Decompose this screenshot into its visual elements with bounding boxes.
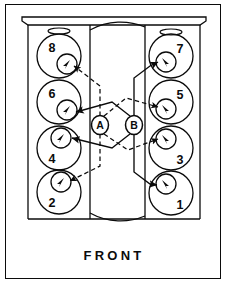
arrowhead-plug-6 <box>63 106 70 115</box>
cylinder-label-7: 7 <box>173 42 187 56</box>
right-bank-plugs <box>149 34 193 215</box>
cylinder-label-1: 1 <box>173 198 187 212</box>
valve-cover-slots <box>48 28 182 35</box>
intake-manifold-bottom-curve <box>90 213 145 221</box>
cylinder-label-6: 6 <box>45 87 59 101</box>
arrowhead-plug-4 <box>57 134 64 143</box>
arrowhead-plug-5 <box>162 105 169 114</box>
manifold-top-rail <box>22 17 206 25</box>
terminal-label-a: A <box>94 119 106 131</box>
diagram-canvas: 8 6 4 2 7 5 3 1 A B FRONT <box>0 0 228 285</box>
terminal-label-b: B <box>128 119 140 131</box>
engine-diagram-svg <box>0 0 228 285</box>
intake-manifold-top-curve <box>90 22 145 30</box>
front-orientation-label: FRONT <box>0 248 228 263</box>
cylinder-label-4: 4 <box>45 152 59 166</box>
arrowhead-plug-1 <box>162 180 169 189</box>
cylinder-label-5: 5 <box>173 88 187 102</box>
plug-arrowheads <box>57 58 169 189</box>
arrowhead-plug-7 <box>162 58 169 67</box>
wire-b-to-plug-6[interactable] <box>76 102 130 116</box>
cylinder-label-2: 2 <box>45 196 59 210</box>
cylinder-label-8: 8 <box>45 41 59 55</box>
arrowhead-plug-3 <box>162 135 169 144</box>
left-slot-icon <box>48 28 70 34</box>
arrowhead-plug-8 <box>63 60 70 69</box>
arrowhead-plug-2 <box>57 178 64 187</box>
cylinder-label-3: 3 <box>173 153 187 167</box>
